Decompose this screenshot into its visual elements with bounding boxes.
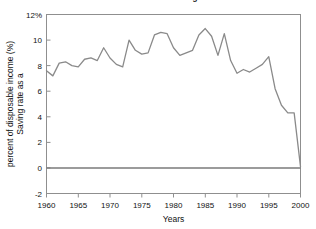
- x-tick-labels: 1960 1965 1970 1975 1980 1985 1990 1995 …: [38, 201, 310, 210]
- y-tick-labels: 12% 10 8 6 4 2 0 -2: [26, 11, 43, 199]
- y-tick-label: 8: [38, 62, 43, 71]
- y-tick-label: 10: [33, 36, 42, 45]
- x-tick-label: 2000: [292, 201, 310, 210]
- saving-rate-series-line: [47, 29, 301, 167]
- plot-frame: [47, 15, 301, 194]
- x-tick-label: 1985: [196, 201, 214, 210]
- y-tick-label: 0: [38, 164, 43, 173]
- y-tick-label: 4: [38, 113, 43, 122]
- x-tick-label: 1960: [38, 201, 56, 210]
- y-tick-label: -2: [35, 190, 43, 199]
- y-tick-label: 6: [38, 87, 43, 96]
- line-chart-plot: 12% 10 8 6 4 2 0 -2 1960 1965 1970 1975: [0, 0, 316, 229]
- x-tick-label: 1995: [260, 201, 278, 210]
- x-tick-label: 1965: [69, 201, 87, 210]
- x-tick-label: 1975: [133, 201, 151, 210]
- y-axis-ticks: [47, 15, 51, 194]
- chart-figure: The U.S. Personal Saving Rate 12% 10 8 6…: [0, 0, 316, 229]
- x-tick-label: 1970: [101, 201, 119, 210]
- x-tick-label: 1980: [165, 201, 183, 210]
- x-tick-label: 1990: [228, 201, 246, 210]
- y-axis-title-line2: percent of disposable income (%): [5, 41, 15, 167]
- y-axis-title-line1: Saving rate as a: [15, 73, 25, 135]
- y-axis-title: percent of disposable income (%) Saving …: [5, 41, 25, 167]
- x-axis-title: Years: [163, 214, 184, 224]
- y-tick-label: 2: [38, 138, 43, 147]
- y-tick-label: 12%: [26, 11, 42, 20]
- x-axis-ticks: [47, 194, 301, 198]
